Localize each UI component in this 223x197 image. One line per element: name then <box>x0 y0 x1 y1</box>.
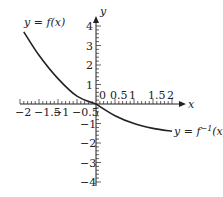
x-tick-label: −1 <box>53 106 69 119</box>
chart: −2−1.5−1−0.500.511.524321−1−2−3−4 y = f(… <box>0 0 223 197</box>
x-tick-label: −2 <box>15 106 31 119</box>
y-tick-label: −2 <box>80 137 96 150</box>
x-tick-label: 2 <box>167 89 174 102</box>
y-tick-label: 2 <box>86 59 93 72</box>
x-tick-label: 1.5 <box>148 89 166 102</box>
x-arrow-icon <box>179 101 186 107</box>
label-f: y = f(x) <box>23 16 65 29</box>
y-tick-label: 1 <box>86 79 93 92</box>
x-axis-label: x <box>188 98 195 111</box>
y-tick-label: −1 <box>80 118 96 131</box>
y-arrow-icon <box>93 16 99 23</box>
x-tick-label: 1 <box>129 89 136 102</box>
y-axis-label: y <box>99 5 107 18</box>
y-tick-label: −4 <box>80 176 96 189</box>
x-tick-label: 0.5 <box>110 89 128 102</box>
y-tick-label: 3 <box>86 40 93 53</box>
plot: −2−1.5−1−0.500.511.524321−1−2−3−4 y = f(… <box>0 0 223 197</box>
x-tick-label: 0 <box>99 89 106 102</box>
label-finv: y = f−1(x) <box>173 124 223 138</box>
y-tick-label: −3 <box>80 157 96 170</box>
curve-f-inverse <box>96 104 172 131</box>
y-tick-label: 4 <box>86 20 93 33</box>
